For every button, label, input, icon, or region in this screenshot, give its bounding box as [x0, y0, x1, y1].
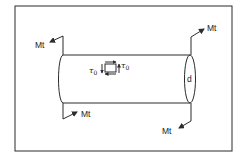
shaft-end-label: d — [187, 74, 192, 84]
torque-left-top: Mt — [35, 36, 63, 55]
torque-left-top-label: Mt — [35, 40, 45, 50]
shaft: d — [59, 55, 196, 103]
torque-left-bottom-label: Mt — [81, 109, 91, 119]
torsion-shaft-diagram: d Mt Mt Mt Mt τ0 τ0 — [0, 0, 242, 161]
torque-left-bottom: Mt — [63, 103, 91, 119]
torque-right-top: Mt — [191, 23, 217, 55]
shear-stress-right-label: τ0 — [121, 61, 129, 71]
shear-stress-left-label: τ0 — [89, 66, 97, 76]
torque-right-top-label: Mt — [207, 23, 217, 33]
shear-element-square — [105, 64, 116, 72]
shear-element: τ0 τ0 — [89, 61, 129, 76]
diagram-frame — [15, 6, 232, 151]
shaft-left-end — [59, 55, 64, 103]
torque-right-bottom-label: Mt — [162, 126, 172, 136]
torque-right-bottom: Mt — [162, 103, 191, 136]
